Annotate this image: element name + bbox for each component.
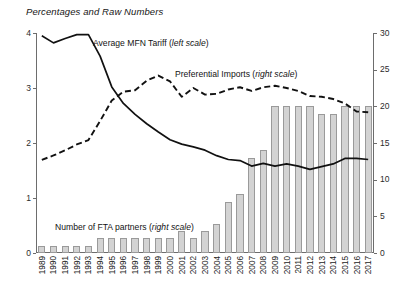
x-axis-label-2006: 2006	[235, 256, 244, 274]
bar-slot	[327, 33, 339, 253]
bar-slot	[164, 33, 176, 253]
x-axis-label-2000: 2000	[166, 256, 175, 274]
bar-slot	[257, 33, 269, 253]
bar-slot	[106, 33, 118, 253]
bar-2003	[201, 231, 208, 253]
bar-1997	[131, 238, 138, 253]
bar-2009	[271, 106, 278, 253]
bar-slot	[351, 33, 363, 253]
right-axis-tickmark	[374, 253, 377, 254]
x-axis-label-2012: 2012	[305, 256, 314, 274]
x-axis-label-2014: 2014	[329, 256, 338, 274]
bar-slot	[129, 33, 141, 253]
bar-slot	[83, 33, 95, 253]
x-axis-label-2011: 2011	[294, 256, 303, 274]
x-label-slot: 1995	[106, 255, 118, 305]
bar-slot	[199, 33, 211, 253]
right-axis-tick-20: 20	[380, 102, 389, 111]
x-label-slot: 2005	[223, 255, 235, 305]
bar-slot	[94, 33, 106, 253]
x-label-slot: 2010	[281, 255, 293, 305]
x-axis-label-1995: 1995	[107, 256, 116, 274]
bar-2010	[283, 106, 290, 253]
right-axis-tick-10: 10	[380, 175, 389, 184]
bar-slot	[71, 33, 83, 253]
left-axis-tick-3: 3	[26, 84, 31, 93]
bar-2016	[353, 106, 360, 253]
x-axis-label-2003: 2003	[201, 256, 210, 274]
x-axis-label-1989: 1989	[37, 256, 46, 274]
bar-1989	[38, 246, 45, 253]
x-label-slot: 2012	[304, 255, 316, 305]
bar-1993	[85, 246, 92, 253]
bar-slot	[339, 33, 351, 253]
x-axis-label-1998: 1998	[142, 256, 151, 274]
x-label-slot: 1994	[94, 255, 106, 305]
bar-2005	[225, 202, 232, 253]
x-label-slot: 1991	[59, 255, 71, 305]
x-label-slot: 2013	[316, 255, 328, 305]
bar-2002	[190, 238, 197, 253]
bar-slot	[304, 33, 316, 253]
x-axis-label-2016: 2016	[352, 256, 361, 274]
bar-slot	[118, 33, 130, 253]
bar-1992	[73, 246, 80, 253]
x-label-slot: 1989	[36, 255, 48, 305]
bar-2008	[260, 150, 267, 253]
x-label-slot: 2000	[164, 255, 176, 305]
bar-slot	[141, 33, 153, 253]
bar-slot	[246, 33, 258, 253]
bar-2007	[248, 158, 255, 253]
right-axis-tick-0: 0	[380, 249, 385, 258]
x-axis-label-1992: 1992	[72, 256, 81, 274]
bar-slot	[48, 33, 60, 253]
right-axis-tickmark	[374, 70, 377, 71]
bar-1990	[50, 246, 57, 253]
x-label-slot: 2014	[327, 255, 339, 305]
x-axis-label-2015: 2015	[340, 256, 349, 274]
bar-slot	[188, 33, 200, 253]
right-axis-tick-15: 15	[380, 139, 389, 148]
bar-slot	[269, 33, 281, 253]
bar-series-fta-partners	[36, 33, 374, 253]
bar-2001	[178, 231, 185, 253]
bar-slot	[362, 33, 374, 253]
bar-2012	[306, 106, 313, 253]
right-axis-tick-30: 30	[380, 29, 389, 38]
x-axis-label-1994: 1994	[96, 256, 105, 274]
bar-2011	[295, 106, 302, 253]
x-label-slot: 2002	[188, 255, 200, 305]
x-axis-label-1996: 1996	[119, 256, 128, 274]
x-axis-label-1999: 1999	[154, 256, 163, 274]
bar-slot	[234, 33, 246, 253]
right-axis-tick-25: 25	[380, 65, 389, 74]
x-axis-label-1991: 1991	[61, 256, 70, 274]
x-label-slot: 1996	[118, 255, 130, 305]
bar-slot	[316, 33, 328, 253]
x-axis-labels: 1989199019911992199319941995199619971998…	[36, 255, 374, 305]
x-axis-label-2001: 2001	[177, 256, 186, 274]
bar-slot	[223, 33, 235, 253]
x-label-slot: 1990	[48, 255, 60, 305]
right-axis-tickmark	[374, 180, 377, 181]
x-axis-label-1993: 1993	[84, 256, 93, 274]
bar-1991	[62, 246, 69, 253]
bar-slot	[292, 33, 304, 253]
bar-2014	[330, 114, 337, 253]
bar-1998	[143, 238, 150, 253]
left-axis-tick-2: 2	[26, 139, 31, 148]
right-axis-tickmark	[374, 106, 377, 107]
bar-slot	[36, 33, 48, 253]
x-label-slot: 2009	[269, 255, 281, 305]
bar-slot	[281, 33, 293, 253]
x-axis-label-2004: 2004	[212, 256, 221, 274]
chart-container: Percentages and Raw Numbers 01234 051015…	[0, 0, 419, 308]
x-axis-label-1997: 1997	[131, 256, 140, 274]
left-axis-tick-1: 1	[26, 194, 31, 203]
bar-slot	[176, 33, 188, 253]
bar-slot	[59, 33, 71, 253]
bar-2015	[341, 106, 348, 253]
series-label-mfn-tariff: Average MFN Tariff (left scale)	[93, 38, 209, 48]
x-label-slot: 2001	[176, 255, 188, 305]
series-label-preferential-imports: Preferential Imports (right scale)	[175, 69, 297, 79]
